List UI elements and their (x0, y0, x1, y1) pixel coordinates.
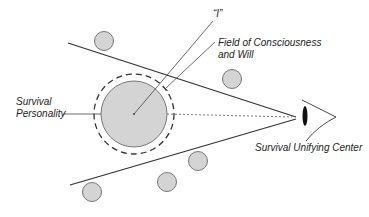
eye-icon (302, 100, 336, 141)
sub-personality-circle (158, 173, 177, 192)
dotted-connection-line (167, 114, 292, 117)
field-leader-line (166, 42, 215, 88)
field-label-line1: Field of Consciousness (218, 37, 321, 49)
sub-personality-circle (95, 32, 114, 51)
sub-personality-circle (223, 70, 242, 89)
i-center-dot (133, 113, 135, 115)
sub-personality-circle (83, 183, 102, 202)
survival-label-line1: Survival (16, 96, 52, 108)
sub-personality-circle (189, 152, 208, 171)
i-leader-line (134, 21, 213, 114)
survival-label-line2: Personality (16, 108, 65, 120)
diagram-canvas: “I” Field of Consciousness and Will Surv… (0, 0, 369, 217)
field-label-line2: and Will (218, 49, 253, 61)
unifying-center-label: Survival Unifying Center (255, 142, 362, 154)
i-label: “I” (213, 8, 222, 20)
